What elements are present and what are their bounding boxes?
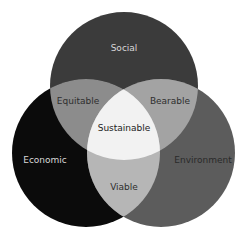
environment-label: Environment [174,155,232,165]
sustainable-label: Sustainable [98,123,151,133]
venn-diagram: Social Economic Environment Equitable Be… [0,0,244,241]
economic-label: Economic [23,155,67,165]
equitable-label: Equitable [57,96,100,106]
social-label: Social [111,43,138,53]
bearable-label: Bearable [150,96,191,106]
viable-label: Viable [110,182,138,192]
